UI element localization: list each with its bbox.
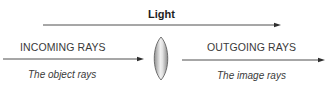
incoming-ray-arrow: [3, 57, 144, 61]
incoming-rays-heading: INCOMING RAYS: [20, 42, 106, 53]
lens-diagram: Light INCOMING RAYS The object rays OUTG…: [0, 0, 329, 89]
convex-lens-icon: [154, 37, 168, 80]
outgoing-rays-heading: OUTGOING RAYS: [207, 42, 296, 53]
object-rays-caption: The object rays: [28, 70, 96, 80]
diagram-title: Light: [148, 9, 175, 20]
light-direction-arrow: [43, 23, 281, 27]
image-rays-caption: The image rays: [217, 71, 286, 81]
outgoing-ray-arrow: [182, 58, 325, 62]
